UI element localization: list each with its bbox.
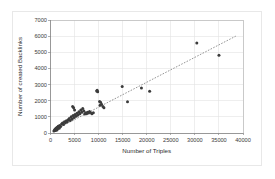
x-tick-label: 35000 [211, 137, 227, 143]
y-tick-label: 5000 [34, 49, 46, 55]
y-axis-title: Number of created Backlinks [16, 37, 23, 116]
x-axis: 0500010000150002000025000300003500040000 [49, 133, 251, 143]
data-point [217, 54, 220, 57]
x-tick-label: 25000 [163, 137, 179, 143]
data-point [92, 111, 95, 114]
chart-figure: 0100020003000400050006000700005000100001… [0, 0, 275, 179]
y-tick-label: 7000 [34, 17, 46, 23]
x-tick-label: 30000 [187, 137, 203, 143]
data-point [59, 125, 62, 128]
x-tick-label: 40000 [235, 137, 251, 143]
scatter-plot: 0100020003000400050006000700005000100001… [0, 0, 275, 179]
y-tick-label: 3000 [34, 82, 46, 88]
data-point [148, 90, 151, 93]
data-point [140, 87, 143, 90]
x-tick-label: 10000 [91, 137, 107, 143]
data-point [99, 104, 102, 107]
x-tick-label: 0 [49, 137, 52, 143]
data-point [121, 85, 124, 88]
y-axis: 01000200030004000500060007000 [34, 17, 50, 136]
data-point [102, 106, 105, 109]
data-point [73, 109, 76, 112]
x-tick-label: 5000 [68, 137, 80, 143]
y-tick-label: 2000 [34, 98, 46, 104]
x-tick-label: 20000 [139, 137, 155, 143]
y-tick-label: 0 [44, 130, 47, 136]
y-tick-label: 4000 [34, 65, 46, 71]
data-point [96, 90, 99, 93]
y-tick-label: 6000 [34, 33, 46, 39]
data-point [195, 41, 198, 44]
data-point [126, 100, 129, 103]
x-axis-title: Number of Triples [122, 147, 171, 154]
y-tick-label: 1000 [34, 114, 46, 120]
x-tick-label: 15000 [115, 137, 131, 143]
